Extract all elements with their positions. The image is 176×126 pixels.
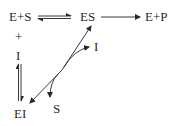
label-inhibitor-right: I <box>94 39 98 54</box>
label-plus: + <box>15 29 22 44</box>
label-s: S <box>53 101 60 116</box>
release-i-curved-arrow <box>64 47 89 67</box>
release-s-curved-arrow <box>50 74 58 97</box>
reaction-diagram: E+S ES E+P + I I EI S <box>0 0 176 126</box>
diagram-svg: E+S ES E+P + I I EI S <box>0 0 176 126</box>
label-e-plus-s: E+S <box>9 9 32 24</box>
label-e-plus-p: E+P <box>145 9 168 24</box>
label-es: ES <box>80 9 95 24</box>
label-ei: EI <box>14 106 26 121</box>
label-inhibitor-left: I <box>16 48 20 63</box>
